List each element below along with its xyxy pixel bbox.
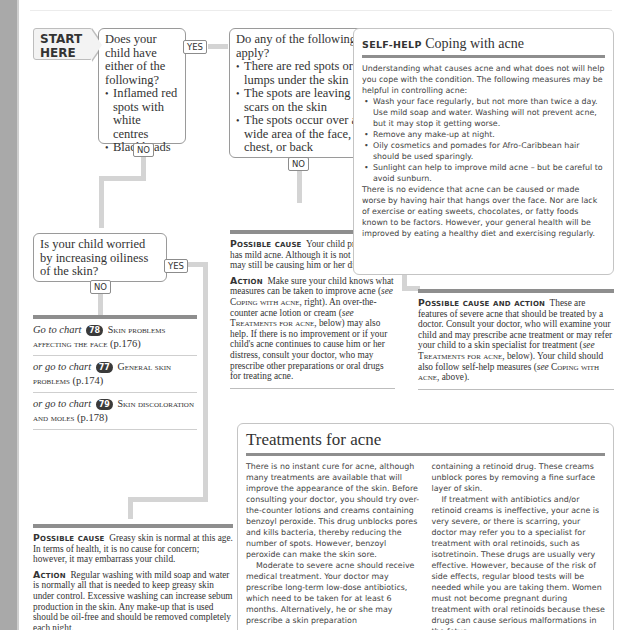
question-2-bullet: There are red spots or lumps under the s…: [236, 60, 364, 87]
treatments-columns: There is no instant cure for acne, altho…: [246, 461, 605, 630]
q1-yes-tag: YES: [183, 40, 207, 54]
chart-link-79[interactable]: or go to chart 79 Skin discoloration and…: [33, 393, 197, 430]
connector-q1-no-horiz: [99, 176, 146, 181]
chart-page: (p.178): [77, 412, 108, 423]
treatments-title: Treatments for acne: [246, 430, 605, 456]
self-help-body: Understanding what causes acne and what …: [362, 63, 605, 239]
connector-q3-yes-down: [203, 262, 208, 502]
start-label-line-2: HERE: [40, 46, 92, 60]
q2-no-tag: NO: [288, 157, 309, 171]
mild-acne-action: Action Make sure your child knows what m…: [230, 276, 395, 382]
action-heading: Action: [230, 275, 263, 286]
chart-page: (p.176): [110, 338, 141, 349]
page-edge-strip: [0, 0, 19, 630]
treatments-for-acne-link[interactable]: Treatments for acne: [418, 351, 502, 361]
greasy-skin-cause: Possible cause Greasy skin is normal at …: [33, 533, 233, 565]
greasy-skin-result: Possible cause Greasy skin is normal at …: [33, 524, 233, 630]
chart-link-prefix: or go to chart: [33, 398, 91, 409]
chart-link-prefix: Go to chart: [33, 324, 81, 335]
q3-yes-tag: YES: [164, 259, 188, 273]
connector-q2-no: [297, 168, 302, 203]
connector-q1-no-down: [99, 176, 104, 228]
self-help-bullet: Sunlight can help to improve mild acne –…: [362, 162, 605, 184]
section-end-rule: [418, 389, 614, 390]
question-2-bullet: The spots occur over a wide area of the …: [236, 114, 364, 155]
possible-cause-heading: Possible cause: [33, 532, 105, 543]
chart-link-78[interactable]: Go to chart 78 Skin problems affecting t…: [33, 319, 197, 356]
chart-link-prefix: or go to chart: [33, 361, 91, 372]
start-label-line-1: START: [40, 32, 92, 46]
see-label: see: [381, 286, 393, 296]
coping-with-acne-link[interactable]: Coping with acne: [230, 297, 300, 307]
self-help-title-text: Coping with acne: [425, 36, 524, 51]
action-heading: Action: [33, 569, 66, 580]
treatments-column-2: containing a retinoid drug. These creams…: [432, 461, 606, 630]
greasy-skin-action: Action Regular washing with mild soap an…: [33, 570, 233, 630]
section-end-rule: [230, 388, 395, 389]
severe-acne-text-part: , above).: [437, 372, 469, 382]
q1-no-tag: NO: [133, 143, 154, 157]
see-label: see: [537, 362, 549, 372]
treatments-paragraph: Moderate to severe acne should receive m…: [246, 560, 420, 626]
treatments-paragraph: containing a retinoid drug. These creams…: [432, 461, 606, 494]
treatments-column-1: There is no instant cure for acne, altho…: [246, 461, 420, 630]
section-rule: [33, 524, 233, 528]
treatments-paragraph: If treatment with antibiotics and/or ret…: [432, 494, 606, 630]
self-help-panel: SELF-HELP Coping with acne Understanding…: [353, 28, 614, 275]
chart-link-77[interactable]: or go to chart 77 General skin problems …: [33, 356, 197, 393]
see-label: see: [583, 340, 595, 350]
connector-q1-yes: [208, 44, 228, 49]
chart-number-badge: 78: [86, 325, 103, 336]
question-1-bullet: Inflamed red spots with white centres: [105, 87, 179, 141]
connector-q3-yes-down2: [128, 497, 133, 519]
top-rule: [30, 10, 612, 11]
question-2-bullet: The spots are leaving scars on the skin: [236, 87, 364, 114]
chart-links: Go to chart 78 Skin problems affecting t…: [33, 315, 197, 430]
see-label: see: [342, 308, 354, 318]
question-box-2: Do any of the following apply? There are…: [229, 28, 371, 158]
self-help-bullet: Remove any make-up at night.: [362, 129, 605, 140]
self-help-kicker: SELF-HELP: [362, 39, 422, 50]
chart-page: (p.174): [73, 375, 104, 386]
section-rule: [418, 289, 614, 293]
question-box-3: Is your child worried by increasing oili…: [33, 233, 167, 282]
treatments-panel: Treatments for acne There is no instant …: [237, 423, 614, 630]
chart-number-badge: 79: [96, 399, 113, 410]
self-help-bullet: Oily cosmetics and pomades for Afro-Cari…: [362, 140, 605, 162]
self-help-intro: Understanding what causes acne and what …: [362, 63, 605, 96]
possible-cause-heading: Possible cause: [230, 238, 302, 249]
question-1-text: Does your child have either of the follo…: [105, 33, 179, 87]
start-here-marker: START HERE: [33, 28, 93, 60]
chart-number-badge: 77: [96, 362, 113, 373]
possible-cause-action-heading: Possible cause and action: [418, 297, 545, 308]
q3-no-tag: NO: [90, 280, 111, 294]
connector-q3-no: [98, 290, 103, 318]
treatments-paragraph: There is no instant cure for acne, altho…: [246, 461, 420, 560]
treatments-for-acne-link[interactable]: Treatments for acne: [230, 318, 314, 328]
severe-acne-text: Possible cause and action These are feat…: [418, 298, 614, 383]
severe-acne-result: Possible cause and action These are feat…: [418, 289, 614, 390]
connector-q3-yes-horiz2: [128, 497, 208, 502]
self-help-title: SELF-HELP Coping with acne: [362, 36, 605, 58]
self-help-outro: There is no evidence that acne can be ca…: [362, 184, 605, 239]
self-help-bullet: Wash your face regularly, but not more t…: [362, 96, 605, 129]
question-box-1: Does your child have either of the follo…: [98, 28, 186, 144]
question-2-text: Do any of the following apply?: [236, 33, 364, 60]
question-3-text: Is your child worried by increasing oili…: [40, 238, 160, 279]
